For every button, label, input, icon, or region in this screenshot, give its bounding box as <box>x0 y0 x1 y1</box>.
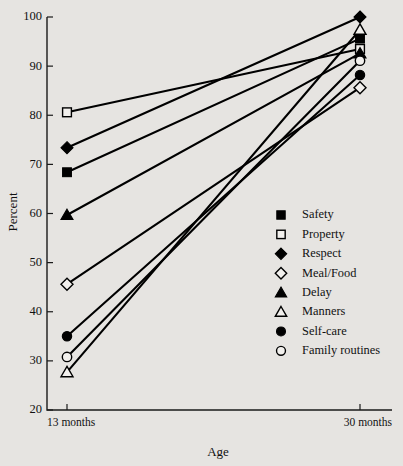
y-tick-label: 80 <box>30 108 43 122</box>
y-tick-label: 100 <box>23 9 42 23</box>
data-point-marker <box>63 108 72 117</box>
data-point-marker <box>61 142 73 154</box>
legend-label-meal-food: Meal/Food <box>302 266 357 280</box>
data-point-marker <box>277 327 286 336</box>
data-point-marker <box>355 56 364 65</box>
y-tick-label: 50 <box>30 255 43 269</box>
data-point-marker <box>277 230 285 238</box>
x-tick-label: 30 months <box>344 416 393 428</box>
data-point-marker <box>63 168 72 177</box>
chart-legend: SafetyPropertyRespectMeal/FoodDelayManne… <box>275 207 380 357</box>
y-tick-label: 90 <box>30 59 43 73</box>
data-point-marker <box>275 287 286 297</box>
x-axis-title: Age <box>207 444 229 459</box>
y-tick-label: 30 <box>30 353 43 367</box>
y-tick-label: 40 <box>30 304 43 318</box>
series-line-delay <box>67 53 360 215</box>
legend-label-property: Property <box>302 227 345 241</box>
legend-label-respect: Respect <box>302 246 342 260</box>
y-axis-title: Percent <box>5 192 20 231</box>
legend-label-self-care: Self-care <box>302 324 347 338</box>
y-tick-label: 20 <box>30 402 43 416</box>
data-point-marker <box>62 332 71 341</box>
data-point-marker <box>275 268 286 279</box>
series-lines <box>67 17 360 372</box>
chart-figure: 2030405060708090100 13 months30 months S… <box>0 0 403 466</box>
y-tick-label: 70 <box>30 157 43 171</box>
data-point-marker <box>354 11 366 23</box>
data-point-marker <box>61 278 73 290</box>
legend-label-safety: Safety <box>302 207 334 221</box>
data-point-marker <box>62 352 71 361</box>
data-point-marker <box>275 248 286 259</box>
data-point-marker <box>355 70 364 79</box>
data-point-marker <box>354 24 366 34</box>
y-tick-labels: 2030405060708090100 <box>23 9 42 416</box>
legend-label-manners: Manners <box>302 304 346 318</box>
data-point-marker <box>277 346 286 355</box>
data-point-marker <box>277 211 285 219</box>
data-point-marker <box>275 306 286 316</box>
data-point-marker <box>356 34 365 43</box>
legend-label-delay: Delay <box>302 285 332 299</box>
x-tick-labels: 13 months30 months <box>47 416 393 428</box>
data-point-marker <box>354 82 366 94</box>
x-tick-label: 13 months <box>47 416 96 428</box>
y-tick-label: 60 <box>30 206 43 220</box>
slope-chart: 2030405060708090100 13 months30 months S… <box>0 0 403 466</box>
legend-label-family-routines: Family routines <box>302 343 380 357</box>
data-point-marker <box>61 209 73 219</box>
